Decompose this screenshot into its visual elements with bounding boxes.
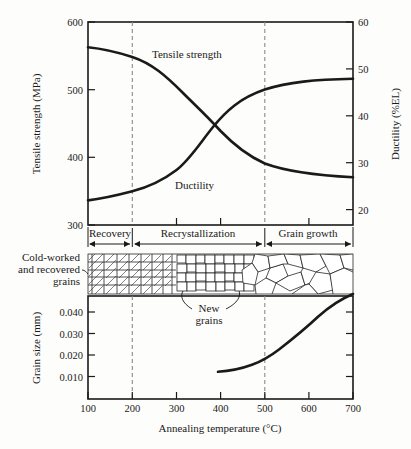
cold-worked-line2: and recovered [18, 263, 80, 275]
tensile-strength-label: Tensile strength [152, 48, 222, 60]
region-label-recrystallization: Recrystallization [161, 227, 236, 239]
annealing-figure: 600 500 400 300 Tensile strength (MPa) 6… [0, 0, 411, 449]
x-tick-500: 500 [257, 403, 273, 414]
right-tick-20: 20 [358, 205, 369, 216]
left-axis-ticks [88, 22, 95, 225]
region-label-recovery: Recovery [89, 227, 132, 239]
region-strip: Recovery Recrystallization Grain growth [88, 227, 353, 247]
x-tick-700: 700 [345, 403, 361, 414]
grain-tick-0040: 0.040 [59, 307, 83, 318]
x-axis-title: Annealing temperature (°C) [159, 422, 282, 435]
right-axis-ticks [346, 22, 353, 210]
left-tick-400: 400 [67, 152, 83, 163]
x-tick-600: 600 [301, 403, 317, 414]
grain-size-axis-title: Grain size (mm) [30, 312, 43, 384]
right-tick-60: 60 [358, 17, 369, 28]
x-tick-400: 400 [213, 403, 229, 414]
x-tick-200: 200 [124, 403, 140, 414]
left-tick-300: 300 [67, 220, 83, 231]
right-tick-50: 50 [358, 64, 369, 75]
left-axis-title: Tensile strength (MPa) [30, 73, 43, 174]
left-tick-600: 600 [67, 17, 83, 28]
left-tick-500: 500 [67, 85, 83, 96]
grain-size-curve [218, 294, 353, 372]
region-label-grain-growth: Grain growth [279, 227, 338, 239]
cold-worked-leader [82, 270, 88, 274]
ductility-label: Ductility [175, 179, 215, 191]
new-grains-line2: grains [196, 314, 223, 326]
grain-tick-0030: 0.030 [59, 329, 83, 340]
grain-tick-0020: 0.020 [59, 350, 83, 361]
cold-worked-annotation: Cold-worked and recovered grains [18, 251, 88, 287]
right-axis-title: Ductility (%EL) [389, 88, 402, 160]
x-axis-ticks [88, 392, 353, 399]
cold-worked-line3: grains [53, 275, 80, 287]
ductility-curve [88, 79, 353, 201]
x-tick-300: 300 [169, 403, 185, 414]
new-grains-line1: New [199, 302, 220, 314]
cold-worked-line1: Cold-worked [22, 251, 81, 263]
microstructure-band [88, 254, 353, 294]
top-panel-bottom-ticks [177, 218, 309, 225]
top-panel: 600 500 400 300 Tensile strength (MPa) 6… [30, 17, 402, 231]
tensile-strength-curve [88, 47, 353, 177]
x-tick-100: 100 [80, 403, 96, 414]
grain-tick-0010: 0.010 [59, 372, 83, 383]
right-tick-30: 30 [358, 158, 369, 169]
right-tick-40: 40 [358, 111, 369, 122]
